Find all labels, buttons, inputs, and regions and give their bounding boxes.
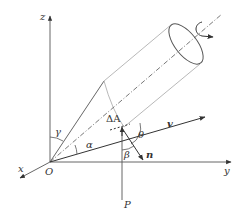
cylinder-lower-edge [124, 64, 200, 127]
alpha-arc [75, 145, 77, 154]
cylinder-upper-edge [104, 24, 172, 81]
y-label: y [223, 165, 230, 176]
figure: z y x O γ α ΔA θ β v n P [0, 0, 236, 221]
velocity-label: v [167, 118, 173, 129]
z-label: z [39, 11, 46, 22]
diagram-canvas: z y x O γ α ΔA θ β v n P [0, 0, 236, 221]
area-element [110, 124, 130, 130]
area-label: ΔA [106, 113, 121, 124]
x-label: x [18, 163, 24, 174]
cone-upper-edge [50, 81, 104, 162]
beta-label: β [123, 149, 130, 160]
theta-label: θ [138, 129, 144, 140]
p-label: P [123, 199, 131, 210]
origin-label: O [45, 166, 53, 177]
alpha-label: α [86, 139, 93, 150]
gamma-label: γ [55, 126, 61, 137]
gamma-arc [50, 137, 63, 141]
normal-label: n [146, 149, 153, 160]
